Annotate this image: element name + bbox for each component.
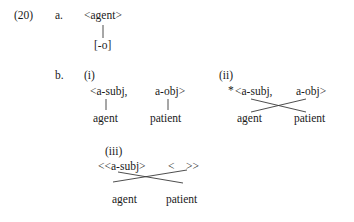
- item-label-b: b.: [55, 70, 64, 82]
- ungrammatical-asterisk: *: [228, 85, 234, 97]
- link-ii-subj-patient: [251, 99, 306, 112]
- part-a-bottom-node: [-o]: [94, 40, 111, 52]
- subitem-i-bottom-left: agent: [93, 113, 118, 125]
- linguistics-example-figure: (20) a. <agent> [-o] b. (i) <a-subj, a-o…: [0, 0, 354, 222]
- subitem-iii-top-left: <<a-subj>: [98, 161, 146, 173]
- subitem-label-i: (i): [84, 70, 95, 82]
- link-ii-obj-agent: [251, 99, 306, 112]
- part-a-top-node: <agent>: [84, 10, 122, 22]
- subitem-ii-top-left: <a-subj,: [235, 86, 272, 98]
- association-lines-layer: [0, 0, 354, 222]
- subitem-ii-top-right: a-obj>: [296, 86, 326, 98]
- subitem-iii-top-right: < >>: [168, 161, 199, 173]
- subitem-iii-bottom-right: patient: [166, 194, 197, 206]
- subitem-iii-bottom-left: agent: [112, 194, 137, 206]
- subitem-i-top-right: a-obj>: [155, 86, 185, 98]
- subitem-label-ii: (ii): [219, 70, 233, 82]
- subitem-ii-bottom-right: patient: [294, 113, 325, 125]
- subitem-ii-bottom-left: agent: [237, 113, 262, 125]
- subitem-i-top-left: <a-subj,: [90, 86, 127, 98]
- item-label-a: a.: [55, 10, 63, 22]
- link-iii-obj-agent: [118, 172, 183, 183]
- subitem-label-iii: (iii): [105, 146, 122, 158]
- subitem-i-bottom-right: patient: [150, 113, 181, 125]
- example-number: (20): [14, 10, 33, 22]
